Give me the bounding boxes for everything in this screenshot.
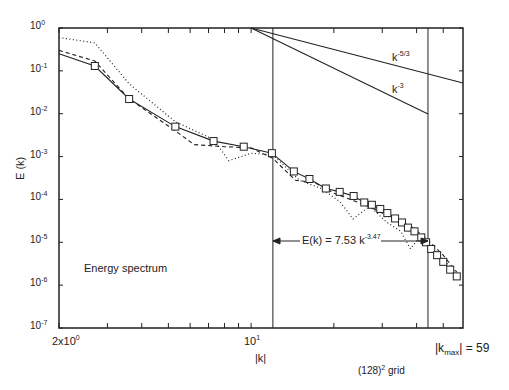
square-marker bbox=[361, 199, 368, 206]
y-tick-label: 10-2 bbox=[30, 105, 47, 117]
series-2 bbox=[59, 38, 457, 273]
x-axis-label: |k| bbox=[255, 352, 266, 364]
y-axis-label-text: E (k) bbox=[14, 157, 26, 180]
kmax-prefix: |k bbox=[435, 341, 444, 355]
square-marker bbox=[453, 273, 460, 280]
plot-frame bbox=[59, 28, 463, 328]
square-marker bbox=[268, 150, 275, 157]
x-tick-10-base: 10 bbox=[244, 335, 256, 347]
square-marker bbox=[210, 138, 217, 145]
grid-note: (128)2 grid bbox=[358, 364, 405, 376]
series-4 bbox=[251, 28, 428, 114]
fit-equation-label: E(k) = 7.53 k-3.47 bbox=[302, 233, 381, 246]
y-tick-label: 10-6 bbox=[30, 276, 47, 288]
axis-ticks bbox=[59, 28, 463, 328]
grid-note-base: (128) bbox=[358, 365, 381, 376]
square-marker bbox=[350, 193, 357, 200]
data-series bbox=[59, 28, 463, 276]
square-marker bbox=[384, 210, 391, 217]
square-marker bbox=[447, 266, 454, 273]
x-tick-2-base: 2x10 bbox=[52, 335, 76, 347]
x-tick-10: 101 bbox=[244, 334, 260, 347]
kmax-sub: max bbox=[444, 348, 459, 357]
x-tick-2-exp: 0 bbox=[76, 334, 80, 341]
square-marker bbox=[411, 228, 418, 235]
square-marker bbox=[377, 205, 384, 212]
fit-equation-exp: -3.47 bbox=[365, 233, 381, 240]
square-marker bbox=[368, 201, 375, 208]
square-markers bbox=[91, 62, 460, 279]
x-tick-10-exp: 1 bbox=[256, 334, 260, 341]
ref1-exp: -5/3 bbox=[398, 50, 410, 57]
series-3 bbox=[251, 28, 463, 83]
y-tick-label: 10-1 bbox=[30, 62, 47, 74]
square-marker bbox=[336, 188, 343, 195]
square-marker bbox=[172, 123, 179, 130]
y-tick-label: 100 bbox=[30, 19, 45, 31]
grid-note-tail: grid bbox=[385, 365, 404, 376]
square-marker bbox=[91, 62, 98, 69]
square-marker bbox=[434, 252, 441, 259]
energy-spectrum-chart bbox=[0, 0, 509, 390]
square-marker bbox=[306, 175, 313, 182]
y-axis-label: E (k) bbox=[14, 157, 26, 180]
kmax-label: |kmax| = 59 bbox=[435, 341, 489, 357]
y-tick-label: 10-3 bbox=[30, 148, 47, 160]
square-marker bbox=[404, 224, 411, 231]
x-tick-2: 2x100 bbox=[52, 334, 80, 347]
ref-slope-3-label: k-3 bbox=[392, 82, 404, 95]
fit-equation-prefix: E(k) = 7.53 k bbox=[302, 234, 365, 246]
ref-slope-5-3-label: k-5/3 bbox=[392, 50, 410, 63]
square-marker bbox=[392, 215, 399, 222]
legend-text: Energy spectrum bbox=[84, 262, 167, 274]
y-tick-label: 10-7 bbox=[30, 319, 47, 331]
fit-range-lines bbox=[273, 28, 428, 328]
square-marker bbox=[440, 258, 447, 265]
kmax-suffix: | = 59 bbox=[459, 341, 489, 355]
y-tick-label: 10-5 bbox=[30, 233, 47, 245]
square-marker bbox=[126, 96, 133, 103]
square-marker bbox=[322, 185, 329, 192]
y-tick-label: 10-4 bbox=[30, 190, 47, 202]
square-marker bbox=[290, 168, 297, 175]
square-marker bbox=[240, 143, 247, 150]
ref2-exp: -3 bbox=[398, 82, 404, 89]
